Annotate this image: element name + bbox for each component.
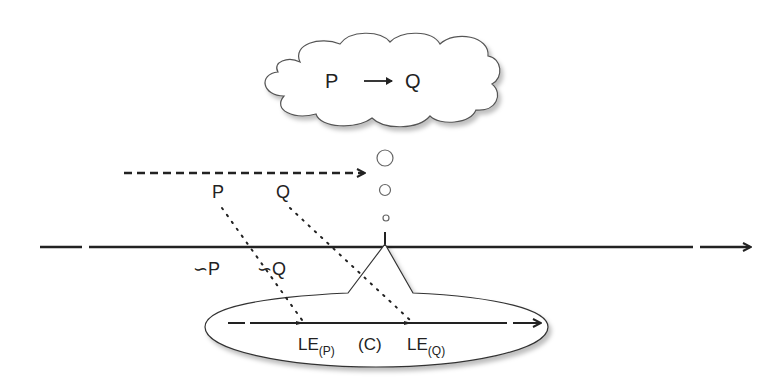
thought-bubble-small (383, 215, 389, 221)
thought-bubble-large (377, 150, 393, 166)
cloud-label-p: P (325, 70, 338, 92)
thought-bubble-medium (380, 185, 391, 196)
label-p: P (212, 182, 224, 202)
label-not-q: ∽Q (257, 259, 286, 279)
thought-cloud (265, 33, 500, 127)
label-q: Q (276, 182, 290, 202)
label-c: (C) (358, 335, 382, 354)
label-not-p: ∽P (193, 259, 220, 279)
cloud-label-q: Q (405, 70, 421, 92)
diagram-canvas: P Q P Q ∽P ∽Q LE(P) (C) LE(Q) (0, 0, 783, 389)
